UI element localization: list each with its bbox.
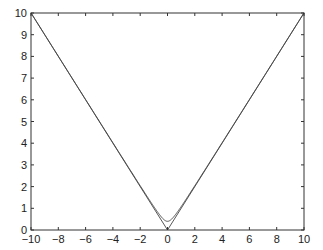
- x-tick-label: 8: [274, 233, 280, 245]
- x-tick-label: 10: [298, 233, 310, 245]
- y-tick-label: 3: [21, 159, 27, 171]
- y-tick-label: 1: [21, 202, 27, 214]
- x-tick-label: −6: [79, 233, 92, 245]
- x-tick-label: 2: [192, 233, 198, 245]
- y-tick-label: 4: [21, 137, 27, 149]
- y-tick-label: 0: [21, 224, 27, 236]
- y-tick-label: 8: [21, 50, 27, 62]
- y-tick-label: 7: [21, 72, 27, 84]
- x-tick-label: 0: [164, 233, 170, 245]
- series-line-1: [31, 13, 304, 221]
- x-tick-label: −8: [52, 233, 65, 245]
- y-tick-label: 5: [21, 116, 27, 128]
- x-axis-ticks: −10−8−6−4−20246810: [22, 13, 310, 245]
- y-tick-label: 6: [21, 94, 27, 106]
- y-tick-label: 2: [21, 181, 27, 193]
- y-tick-label: 9: [21, 29, 27, 41]
- x-tick-label: −2: [134, 233, 147, 245]
- y-axis-ticks: 012345678910: [15, 7, 304, 236]
- x-tick-label: 4: [219, 233, 225, 245]
- x-tick-label: −4: [107, 233, 120, 245]
- plot-lines: [31, 13, 304, 230]
- chart: −10−8−6−4−20246810 012345678910: [0, 0, 323, 250]
- series-line-0: [31, 13, 304, 230]
- axes-box: [31, 13, 304, 230]
- y-tick-label: 10: [15, 7, 27, 19]
- x-tick-label: 6: [246, 233, 252, 245]
